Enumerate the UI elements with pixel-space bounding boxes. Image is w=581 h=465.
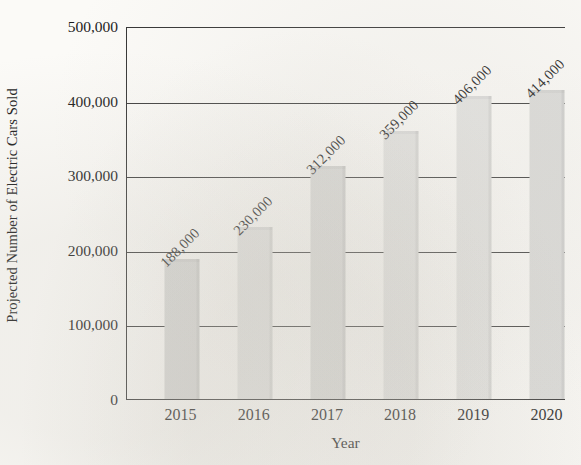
y-axis-tick-label: 0	[28, 391, 118, 409]
x-axis-tick-label: 2017	[311, 406, 343, 424]
bar-slot	[291, 28, 364, 399]
y-axis-tick-label: 400,000	[28, 93, 118, 111]
x-axis-tick-label: 2015	[165, 406, 197, 424]
bar-slot	[145, 28, 218, 399]
y-axis-tick-labels: 0100,000200,000300,000400,000500,000	[26, 0, 118, 465]
y-axis-tick-label: 200,000	[28, 242, 118, 260]
plot-area: 188,000230,000312,000359,000406,000414,0…	[126, 27, 565, 400]
x-axis-tick-label: 2018	[384, 406, 416, 424]
bar-chart-figure: Projected Number of Electric Cars Sold 0…	[0, 0, 581, 465]
y-axis-tick-label: 300,000	[28, 167, 118, 185]
bar[interactable]	[310, 166, 345, 399]
x-axis-tick-label: 2016	[238, 406, 270, 424]
y-axis-tick-label: 500,000	[28, 18, 118, 36]
x-axis-title: Year	[126, 434, 565, 452]
bar[interactable]	[530, 90, 565, 399]
x-axis-tick-label: 2020	[530, 406, 562, 424]
bar-slot	[365, 28, 438, 399]
x-axis-tick-labels: 201520162017201820192020	[126, 406, 565, 432]
y-axis-tick-label: 100,000	[28, 316, 118, 334]
bar[interactable]	[237, 227, 272, 399]
bar[interactable]	[457, 96, 492, 399]
bar[interactable]	[164, 259, 199, 399]
x-axis-tick-label: 2019	[457, 406, 489, 424]
y-axis-title-text: Projected Number of Electric Cars Sold	[4, 88, 21, 323]
bars-layer: 188,000230,000312,000359,000406,000414,0…	[127, 28, 565, 399]
bar[interactable]	[384, 131, 419, 399]
y-axis-title: Projected Number of Electric Cars Sold	[0, 0, 24, 410]
